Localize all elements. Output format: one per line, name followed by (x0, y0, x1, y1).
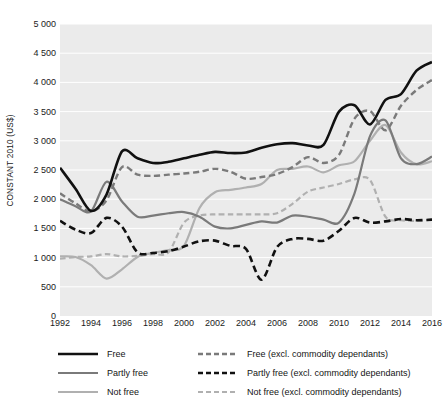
legend-item[interactable]: Not free (excl. commodity dependants) (198, 382, 448, 401)
x-axis-tick-label: 1998 (143, 318, 163, 328)
y-axis-tick-label: 4 000 (4, 77, 56, 87)
legend-item[interactable]: Free (58, 344, 198, 363)
x-axis-tick-label: 1992 (50, 318, 70, 328)
x-axis-tick-label: 2006 (267, 318, 287, 328)
y-axis-tick-label: 0 (4, 311, 56, 321)
plot-svg (60, 24, 432, 316)
legend-label: Partly free (excl. commodity dependants) (247, 368, 411, 378)
legend-swatch-solid-icon (58, 387, 98, 397)
legend-label: Free (excl. commodity dependants) (247, 349, 388, 359)
y-axis-tick-label: 4 500 (4, 48, 56, 58)
x-axis-tick-label: 2014 (391, 318, 411, 328)
x-axis-tick-label: 2012 (360, 318, 380, 328)
legend-swatch-solid-icon (58, 368, 98, 378)
series-line (60, 120, 432, 229)
y-axis-tick-label: 1 500 (4, 223, 56, 233)
series-line (60, 218, 432, 280)
x-axis-tick-labels: 1992199419961998200020022004200620082010… (60, 318, 432, 334)
legend-item[interactable]: Free (excl. commodity dependants) (198, 344, 448, 363)
x-axis-tick-label: 2010 (329, 318, 349, 328)
x-axis-tick-label: 2008 (298, 318, 318, 328)
chart-legend: FreePartly freeNot freeFree (excl. commo… (58, 344, 444, 402)
legend-label: Free (107, 349, 126, 359)
legend-swatch-dashed-icon (198, 349, 238, 359)
x-axis-tick-label: 1996 (112, 318, 132, 328)
legend-swatch-dashed-icon (198, 368, 238, 378)
legend-item[interactable]: Not free (58, 382, 198, 401)
x-axis-tick-label: 2016 (422, 318, 442, 328)
plot-area (60, 24, 432, 316)
y-axis-tick-label: 3 000 (4, 136, 56, 146)
legend-label: Not free (107, 387, 139, 397)
y-axis-tick-label: 1 000 (4, 253, 56, 263)
y-axis-tick-label: 3 500 (4, 107, 56, 117)
y-axis-tick-label: 5 000 (4, 19, 56, 29)
legend-label: Not free (excl. commodity dependants) (247, 387, 402, 397)
chart-screenshot: CONSTANT 2010 (US$) 05001 0001 5002 0002… (0, 0, 448, 408)
legend-label: Partly free (107, 368, 148, 378)
legend-item[interactable]: Partly free (58, 363, 198, 382)
y-axis-tick-label: 2 500 (4, 165, 56, 175)
legend-swatch-dashed-icon (198, 387, 238, 397)
y-axis-tick-label: 2 000 (4, 194, 56, 204)
x-axis-tick-label: 1994 (81, 318, 101, 328)
y-axis-tick-labels: 05001 0001 5002 0002 5003 0003 5004 0004… (0, 24, 56, 316)
legend-swatch-solid-icon (58, 349, 98, 359)
x-axis-tick-label: 2000 (174, 318, 194, 328)
y-axis-tick-label: 500 (4, 282, 56, 292)
x-axis-tick-label: 2002 (205, 318, 225, 328)
series-line (60, 177, 432, 259)
x-axis-tick-label: 2004 (236, 318, 256, 328)
legend-item[interactable]: Partly free (excl. commodity dependants) (198, 363, 448, 382)
